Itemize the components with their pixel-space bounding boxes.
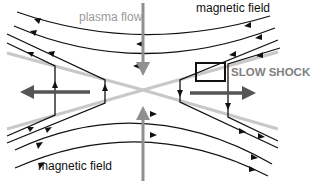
- magnetic-field-top-label: magnetic field: [196, 2, 270, 14]
- field-direction-arrows: [27, 18, 265, 172]
- plasma-flow-label: plasma flow: [79, 11, 142, 23]
- reconnection-diagram: plasma flow magnetic field magnetic fiel…: [0, 0, 311, 181]
- diagram-graphics: [0, 0, 311, 181]
- magnetic-field-bottom-label: magnetic field: [38, 160, 112, 172]
- slow-shock-label: SLOW SHOCK: [231, 67, 310, 79]
